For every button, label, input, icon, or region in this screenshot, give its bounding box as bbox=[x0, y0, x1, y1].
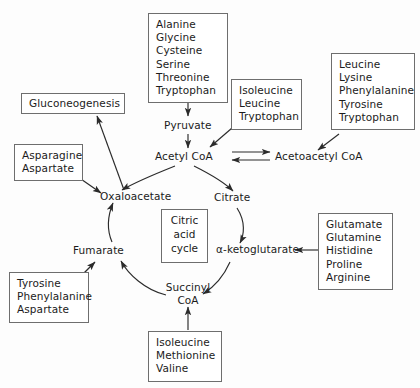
box-gluconeogenesis: Gluconeogenesis bbox=[21, 93, 125, 114]
box-line: Histidine bbox=[326, 244, 385, 257]
center-box-line: cycle bbox=[162, 241, 207, 255]
box-line: Serine bbox=[156, 58, 220, 71]
box-line: Alanine bbox=[156, 18, 220, 31]
node-oxaloacetate: Oxaloacetate bbox=[100, 190, 171, 203]
box-line: Cysteine bbox=[156, 44, 220, 57]
box-line: Aspartate bbox=[17, 303, 81, 316]
node-pyruvate: Pyruvate bbox=[164, 119, 212, 132]
node-succinyl-coa-line1: Succinyl bbox=[162, 281, 214, 294]
node-alpha-ketoglutarate: α-ketoglutarate bbox=[216, 243, 299, 256]
node-fumarate: Fumarate bbox=[73, 244, 124, 257]
box-line: Lysine bbox=[339, 71, 407, 84]
box-line: Threonine bbox=[156, 71, 220, 84]
box-line: Proline bbox=[326, 258, 385, 271]
box-line: Tryptophan bbox=[239, 110, 294, 123]
arrow-acetoacetylcoa-precursors bbox=[318, 134, 339, 150]
arrow-succinylcoa-to-fumarate bbox=[121, 261, 166, 295]
box-line: Glycine bbox=[156, 31, 220, 44]
arrow-acetylcoa-to-citrate bbox=[194, 166, 233, 191]
node-succinyl-coa-line2: CoA bbox=[162, 294, 214, 307]
center-box-line: acid bbox=[162, 227, 207, 241]
box-line: Phenylalanine bbox=[339, 84, 407, 97]
node-succinyl-coa: Succinyl CoA bbox=[162, 281, 214, 307]
center-box-line: Citric bbox=[162, 213, 207, 227]
arrow-citrate-to-akg bbox=[237, 208, 243, 243]
box-line: Isoleucine bbox=[239, 84, 294, 97]
box-succinyl-coa-precursors: Isoleucine Methionine Valine bbox=[148, 331, 222, 382]
box-line: Tyrosine bbox=[17, 277, 81, 290]
node-acetyl-coa: Acetyl CoA bbox=[155, 150, 213, 163]
box-line: Methionine bbox=[156, 349, 214, 362]
center-box-citric-acid-cycle: Citric acid cycle bbox=[161, 209, 208, 263]
box-line: Tryptophan bbox=[339, 111, 407, 124]
box-line: Valine bbox=[156, 362, 214, 375]
box-line: Leucine bbox=[339, 58, 407, 71]
box-oxaloacetate-precursors: Asparagine Aspartate bbox=[14, 144, 83, 181]
box-acetoacetyl-coa-precursors: Leucine Lysine Phenylalanine Tyrosine Tr… bbox=[331, 53, 415, 130]
box-pyruvate-precursors: Alanine Glycine Cysteine Serine Threonin… bbox=[148, 13, 228, 103]
arrow-oxaloacetate-to-gluconeogenesis bbox=[97, 116, 124, 190]
box-fumarate-precursors: Tyrosine Phenylalanine Aspartate bbox=[9, 272, 89, 323]
box-line: Arginine bbox=[326, 271, 385, 284]
node-acetoacetyl-coa: Acetoacetyl CoA bbox=[275, 150, 362, 163]
node-citrate: Citrate bbox=[214, 191, 250, 204]
box-line: Phenylalanine bbox=[17, 290, 81, 303]
metabolic-pathway-diagram: Alanine Glycine Cysteine Serine Threonin… bbox=[0, 0, 420, 388]
box-line: Asparagine bbox=[22, 149, 75, 162]
box-line: Tryptophan bbox=[156, 84, 220, 97]
box-line: Glutamine bbox=[326, 231, 385, 244]
box-line: Aspartate bbox=[22, 162, 75, 175]
box-line: Gluconeogenesis bbox=[29, 97, 117, 110]
arrow-fumarate-to-oxaloacetate bbox=[108, 203, 113, 242]
box-line: Glutamate bbox=[326, 218, 385, 231]
box-line: Isoleucine bbox=[156, 336, 214, 349]
box-alpha-ketoglutarate-precursors: Glutamate Glutamine Histidine Proline Ar… bbox=[318, 213, 393, 290]
box-line: Tyrosine bbox=[339, 98, 407, 111]
arrow-acetylcoa-to-oxaloacetate bbox=[122, 166, 175, 190]
box-line: Leucine bbox=[239, 97, 294, 110]
box-acetyl-coa-precursors: Isoleucine Leucine Tryptophan bbox=[231, 79, 302, 130]
